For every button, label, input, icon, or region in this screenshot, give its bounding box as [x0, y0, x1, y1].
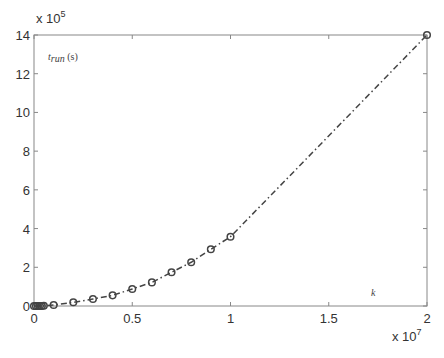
data-series: [31, 32, 431, 310]
y-tick-label: 6: [23, 183, 30, 198]
x-multiplier: x 107: [392, 327, 422, 344]
data-point-marker: [168, 269, 175, 276]
line-chart: 00.511.5202468101214 x 105 x 107 trun (s…: [0, 0, 444, 358]
axes: [34, 35, 427, 306]
x-tick-label: 0.5: [123, 311, 141, 326]
plot-frame: [34, 35, 427, 306]
y-tick-label: 8: [23, 144, 30, 159]
y-tick-label: 12: [16, 67, 30, 82]
y-axis-label: trun (s): [48, 51, 78, 64]
y-tick-label: 10: [16, 105, 30, 120]
data-point-marker: [149, 279, 156, 286]
data-point-marker: [208, 246, 215, 253]
y-multiplier: x 105: [36, 9, 66, 26]
series-line: [34, 35, 427, 306]
x-tick-label: 1.5: [320, 311, 338, 326]
y-tick-label: 2: [23, 260, 30, 275]
tick-labels: 00.511.5202468101214: [16, 28, 431, 326]
y-tick-label: 0: [23, 299, 30, 314]
y-tick-label: 4: [23, 222, 30, 237]
x-tick-label: 2: [423, 311, 430, 326]
x-tick-label: 0: [30, 311, 37, 326]
x-axis-label: k: [371, 287, 376, 298]
y-tick-label: 14: [16, 28, 30, 43]
x-tick-label: 1: [227, 311, 234, 326]
